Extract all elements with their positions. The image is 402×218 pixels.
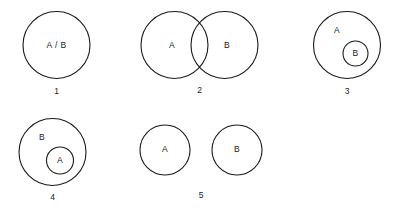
circle-panel4-b-outer bbox=[19, 119, 86, 186]
label-panel4-a: A bbox=[57, 155, 63, 165]
panel-4-a-subset-b: B A 4 bbox=[19, 119, 86, 203]
panel-2-overlap: A B 2 bbox=[141, 12, 258, 96]
label-panel2-a: A bbox=[169, 40, 175, 50]
panel-5-disjoint: A B 5 bbox=[140, 125, 262, 200]
case-number-5: 5 bbox=[199, 190, 204, 200]
figure-root: A / B 1 A B 2 A B 3 B A 4 bbox=[0, 0, 402, 218]
case-number-4: 4 bbox=[50, 192, 55, 202]
label-panel5-a: A bbox=[162, 144, 168, 154]
label-panel4-b: B bbox=[39, 132, 45, 142]
panel-3-b-subset-a: A B 3 bbox=[314, 12, 381, 97]
label-panel3-a: A bbox=[334, 25, 340, 35]
label-panel5-b: B bbox=[234, 144, 240, 154]
label-panel2-b: B bbox=[224, 40, 230, 50]
case-number-1: 1 bbox=[54, 86, 59, 96]
case-number-2: 2 bbox=[197, 85, 202, 95]
set-relationship-diagram-canvas: A / B 1 A B 2 A B 3 B A 4 bbox=[0, 0, 402, 218]
case-number-3: 3 bbox=[345, 86, 350, 96]
label-panel3-b: B bbox=[352, 48, 358, 58]
panel-1-identity: A / B 1 bbox=[23, 12, 90, 97]
label-panel1-ab: A / B bbox=[47, 40, 67, 50]
